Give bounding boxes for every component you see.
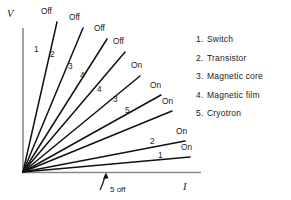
- curve-state-8: On: [176, 126, 187, 136]
- legend: 1. Switch 2. Transistor 3. Magnetic core…: [196, 34, 291, 127]
- curve-line-3: [23, 39, 107, 172]
- curve-line-4: [23, 52, 125, 172]
- curve-line-1: [23, 22, 57, 172]
- curve-number-7: 5: [125, 105, 130, 115]
- legend-item-number: 3.: [196, 71, 207, 81]
- legend-item-1: 1. Switch: [196, 34, 291, 44]
- legend-item-label: Magnetic film: [207, 90, 260, 100]
- legend-item-4: 4. Magnetic film: [196, 90, 291, 100]
- curve-state-9: On: [181, 142, 192, 152]
- curve-number-4: 4: [80, 70, 85, 80]
- curve-state-3: Off: [94, 23, 106, 33]
- legend-item-label: Cryotron: [207, 108, 241, 118]
- curve-number-5: 4: [97, 84, 102, 94]
- curve-state-4: Off: [113, 36, 125, 46]
- x-axis-label: I: [182, 181, 187, 192]
- legend-item-number: 5.: [196, 108, 207, 118]
- curve-state-labels: Off Off Off Off On On On On On: [41, 6, 192, 152]
- curve-number-6: 3: [113, 94, 118, 104]
- curve-state-2: Off: [69, 12, 81, 22]
- legend-item-number: 1.: [196, 34, 207, 44]
- curve-line-5: [23, 76, 140, 172]
- curve-number-8: 2: [150, 136, 155, 146]
- legend-item-label: Transistor: [207, 53, 246, 63]
- curve-number-1: 1: [34, 44, 39, 54]
- curve-line-9: [23, 157, 190, 172]
- curve-state-5: On: [131, 60, 142, 70]
- curve-line-6: [23, 95, 161, 172]
- curve-number-9: 1: [158, 150, 163, 160]
- legend-item-label: Magnetic core: [207, 71, 263, 81]
- legend-item-number: 2.: [196, 53, 207, 63]
- legend-item-2: 2. Transistor: [196, 53, 291, 63]
- off-annotation-group: 5 off: [100, 173, 126, 195]
- legend-item-label: Switch: [207, 34, 233, 44]
- curve-number-labels: 1 2 3 4 4 3 5 2 1: [34, 44, 163, 160]
- annotation-arrowhead-icon: [103, 173, 109, 180]
- axis-labels-group: V I: [7, 8, 187, 192]
- annotation-label: 5 off: [110, 185, 126, 194]
- curve-number-3: 3: [68, 61, 73, 71]
- legend-item-5: 5. Cryotron: [196, 108, 291, 118]
- curve-state-6: On: [150, 80, 161, 90]
- legend-item-number: 4.: [196, 90, 207, 100]
- y-axis-label: V: [7, 8, 15, 19]
- curve-number-2: 2: [50, 49, 55, 59]
- curve-state-1: Off: [41, 6, 53, 16]
- legend-item-3: 3. Magnetic core: [196, 71, 291, 81]
- curve-state-7: On: [162, 96, 173, 106]
- figure-container: 1 2 3 4 4 3 5 2 1 Off Off Off Off On On …: [0, 0, 291, 200]
